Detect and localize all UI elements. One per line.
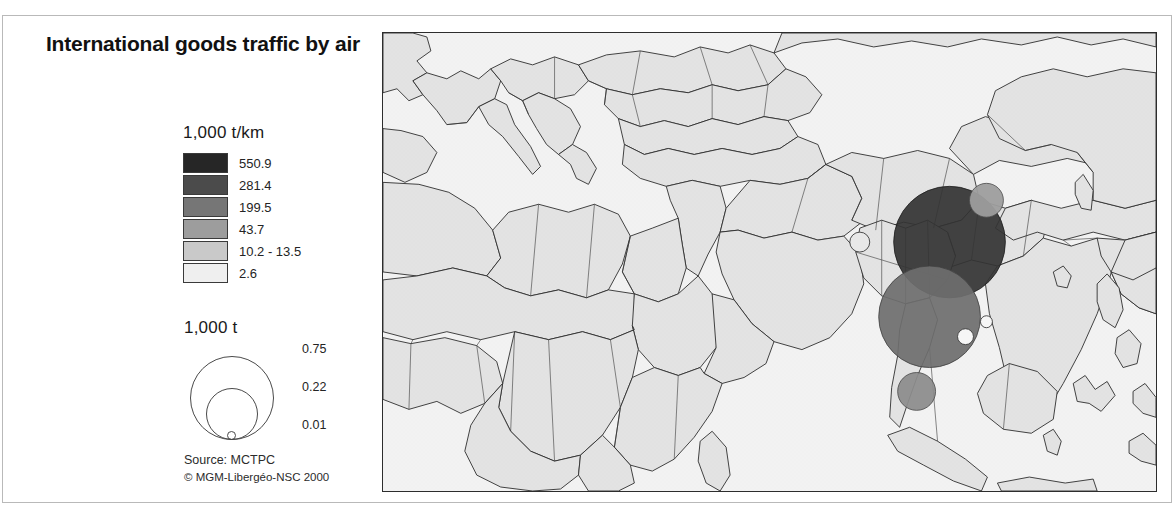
- legend-swatch-label: 281.4: [239, 178, 272, 193]
- map-frame: [382, 32, 1157, 492]
- legend-swatch: [183, 263, 228, 283]
- land-algeria-libya: [487, 204, 631, 298]
- legend-swatch-label: 2.6: [239, 266, 257, 281]
- legend-swatch-label: 43.7: [239, 222, 264, 237]
- legend-swatch: [183, 219, 228, 239]
- legend-item: 10.2 - 13.5: [183, 240, 373, 262]
- symbol-myanmar: [850, 232, 870, 252]
- legend-swatch: [183, 153, 228, 173]
- symbol-hong-kong-china: [969, 183, 1003, 217]
- symbol-singapore-malaysia: [898, 373, 936, 411]
- symbol-thailand: [879, 266, 981, 368]
- circle-legend-value: 0.75: [302, 342, 326, 356]
- legend-item: 2.6: [183, 262, 373, 284]
- legend-item: 550.9: [183, 152, 373, 174]
- legend-swatch: [183, 241, 228, 261]
- map-graphic: [383, 33, 1156, 491]
- legend-item: 199.5: [183, 196, 373, 218]
- legend-swatch-label: 10.2 - 13.5: [239, 244, 301, 259]
- choropleth-legend: 1,000 t/km 550.9 281.4 199.5 43.7 10.2 -…: [183, 123, 373, 284]
- legend-item: 281.4: [183, 174, 373, 196]
- legend-swatch-label: 550.9: [239, 156, 272, 171]
- source-line: Source: MCTPC: [184, 452, 329, 469]
- legend-swatch: [183, 197, 228, 217]
- symbol-vietnam-south: [980, 316, 992, 328]
- circle-legend-heading: 1,000 t: [184, 318, 374, 338]
- legend-swatch: [183, 175, 228, 195]
- choropleth-legend-heading: 1,000 t/km: [183, 123, 373, 143]
- circle-legend-value: 0.22: [302, 380, 326, 394]
- credits-block: Source: MCTPC © MGM-Libergéo-NSC 2000: [184, 452, 329, 486]
- circle-legend-symbols: [188, 344, 284, 440]
- legend-circle-small: [227, 431, 236, 440]
- legend-item: 43.7: [183, 218, 373, 240]
- legend-swatch-label: 199.5: [239, 200, 272, 215]
- copyright-line: © MGM-Libergéo-NSC 2000: [184, 469, 329, 486]
- proportional-circle-legend: 1,000 t 0.75 0.22 0.01: [184, 318, 374, 438]
- page-title: International goods traffic by air: [18, 31, 360, 57]
- page-canvas: International goods traffic by air 1,000…: [0, 0, 1175, 517]
- legend-panel: International goods traffic by air 1,000…: [18, 18, 373, 478]
- circle-legend-value: 0.01: [302, 418, 326, 432]
- symbol-cambodia: [958, 329, 974, 345]
